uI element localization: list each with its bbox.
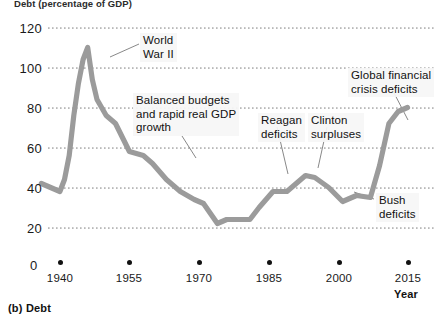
annotation-balanced-budgets: Balanced budgets and rapid real GDP grow… xyxy=(133,93,239,136)
y-tick-60: 60 xyxy=(8,141,42,156)
annotation-reagan-deficits: Reagan deficits xyxy=(258,113,305,142)
panel-caption: (b) Debt xyxy=(8,302,51,314)
x-tick-dot-2000 xyxy=(337,260,342,265)
x-tick-dot-1985 xyxy=(267,260,272,265)
x-tick-dot-1940 xyxy=(58,260,63,265)
y-tick-120: 120 xyxy=(8,21,42,36)
y-tick-20: 20 xyxy=(8,221,42,236)
debt-chart: Debt (percentage of GDP) 120 100 80 xyxy=(0,0,436,326)
annotation-clinton-surpluses: Clinton surpluses xyxy=(308,113,364,142)
y-tick-80: 80 xyxy=(8,101,42,116)
x-axis-title: Year xyxy=(394,288,418,300)
x-tick-2000: 2000 xyxy=(317,272,361,284)
y-tick-0: 0 xyxy=(30,258,38,273)
x-tick-1940: 1940 xyxy=(38,272,82,284)
x-tick-1970: 1970 xyxy=(177,272,221,284)
x-tick-2015: 2015 xyxy=(386,272,430,284)
x-tick-dot-2015 xyxy=(406,260,411,265)
y-tick-100: 100 xyxy=(8,61,42,76)
annotation-world-war-ii: World War II xyxy=(140,33,177,62)
x-tick-dot-1955 xyxy=(127,260,132,265)
annotation-global-financial-crisis: Global financial crisis deficits xyxy=(348,68,434,97)
y-tick-40: 40 xyxy=(8,181,42,196)
x-tick-dot-1970 xyxy=(197,260,202,265)
x-tick-1955: 1955 xyxy=(107,272,151,284)
annotation-bush-deficits: Bush deficits xyxy=(376,193,419,222)
x-tick-1985: 1985 xyxy=(247,272,291,284)
